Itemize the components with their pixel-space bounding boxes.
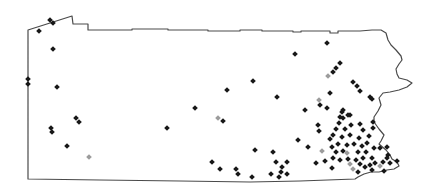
data-point-diamond xyxy=(372,160,378,166)
data-point-diamond xyxy=(333,65,339,71)
data-point-diamond xyxy=(327,90,333,96)
data-point-diamond xyxy=(250,78,256,84)
data-point-diamond xyxy=(360,155,366,161)
data-point-diamond xyxy=(353,157,359,163)
data-point-diamond xyxy=(380,159,386,165)
data-point-diamond xyxy=(302,107,308,113)
data-point-diamond xyxy=(319,148,325,154)
data-point-diamond xyxy=(324,105,330,111)
data-point-diamond xyxy=(276,174,282,180)
data-point-diamond xyxy=(270,149,276,155)
data-point-diamond xyxy=(355,149,361,155)
data-point-diamond xyxy=(220,118,226,124)
data-point-diamond xyxy=(357,161,363,167)
data-point-diamond xyxy=(366,133,372,139)
data-point-diamond xyxy=(337,60,343,66)
data-point-diamond xyxy=(327,136,333,142)
pa-map-svg xyxy=(0,0,424,195)
data-point-diamond xyxy=(316,97,322,103)
data-point-diamond xyxy=(339,134,345,140)
data-point-diamond xyxy=(313,160,319,166)
data-point-diamond xyxy=(224,87,230,93)
data-point-diamond xyxy=(215,115,221,121)
data-point-diamond xyxy=(367,162,373,168)
data-point-diamond xyxy=(355,169,361,175)
data-point-diamond xyxy=(337,157,343,163)
data-point-diamond xyxy=(377,163,383,169)
data-point-diamond xyxy=(329,144,335,150)
data-point-diamond xyxy=(164,125,170,131)
data-point-diamond xyxy=(381,168,387,174)
data-point-diamond xyxy=(54,84,60,90)
data-point-diamond xyxy=(295,137,301,143)
data-point-diamond xyxy=(273,159,279,165)
data-point-diamond xyxy=(342,126,348,132)
data-point-diamond xyxy=(351,141,357,147)
data-point-diamond xyxy=(356,135,362,141)
data-point-diamond xyxy=(371,145,377,151)
data-point-diamond xyxy=(233,166,239,172)
data-point-diamond xyxy=(284,171,290,177)
data-point-diamond xyxy=(49,129,55,135)
data-point-diamond xyxy=(278,169,284,175)
data-point-diamond xyxy=(330,69,336,75)
data-point-diamond xyxy=(335,141,341,147)
data-point-diamond xyxy=(76,119,82,125)
data-point-diamond xyxy=(369,155,375,161)
data-point-diamond xyxy=(25,76,31,82)
data-point-diamond xyxy=(268,171,274,177)
data-point-diamond xyxy=(217,166,223,172)
data-point-diamond xyxy=(344,142,350,148)
data-point-diamond xyxy=(350,166,356,172)
data-point-diamond xyxy=(394,158,400,164)
data-point-diamond xyxy=(73,115,79,121)
data-point-diamond xyxy=(252,147,258,153)
data-point-diamond xyxy=(86,154,92,160)
data-point-diamond xyxy=(347,132,353,138)
data-point-diamond xyxy=(336,120,342,126)
data-point-diamond xyxy=(192,105,198,111)
data-point-diamond xyxy=(360,127,366,133)
data-point-diamond xyxy=(345,156,351,162)
data-point-diamond xyxy=(363,149,369,155)
data-point-diamond xyxy=(25,81,31,87)
data-point-diamond xyxy=(330,132,336,138)
data-point-diamond xyxy=(329,165,335,171)
data-point-diamond xyxy=(64,143,70,149)
data-point-diamond xyxy=(249,174,255,180)
data-point-diamond xyxy=(292,51,298,57)
data-point-diamond xyxy=(364,140,370,146)
data-point-diamond xyxy=(315,122,321,128)
data-point-diamond xyxy=(354,83,360,89)
data-point-diamond xyxy=(209,159,215,165)
data-point-diamond xyxy=(274,94,280,100)
data-point-diamond xyxy=(48,125,54,131)
data-point-diamond xyxy=(387,160,393,166)
data-point-diamond xyxy=(333,126,339,132)
data-point-diamond xyxy=(362,164,368,170)
data-point-diamond xyxy=(350,79,356,85)
data-point-diamond xyxy=(330,155,336,161)
data-point-diamond xyxy=(370,125,376,131)
data-point-diamond xyxy=(284,159,290,165)
data-point-diamond xyxy=(317,102,323,108)
data-point-diamond xyxy=(235,171,241,177)
data-point-diamond xyxy=(348,122,354,128)
data-point-diamond xyxy=(50,46,56,52)
state-outline xyxy=(28,16,412,182)
data-point-diamond xyxy=(324,40,330,46)
data-point-diamond xyxy=(347,161,353,167)
data-point-diamond xyxy=(357,88,363,94)
pennsylvania-dot-map xyxy=(0,0,424,195)
data-point-diamond xyxy=(333,149,339,155)
data-point-diamond xyxy=(359,143,365,149)
data-point-diamond xyxy=(316,128,322,134)
data-point-diamond xyxy=(305,144,311,150)
data-point-diamond xyxy=(357,121,363,127)
data-point-diamond xyxy=(36,28,42,34)
data-point-diamond xyxy=(322,158,328,164)
data-point-diamond xyxy=(279,164,285,170)
data-point-diamond xyxy=(325,73,331,79)
